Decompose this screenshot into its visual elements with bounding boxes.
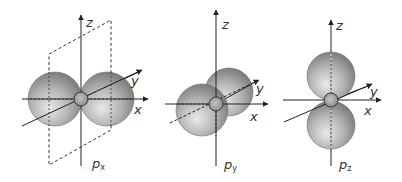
z-axis-label: z [85,15,94,30]
orbital-label-pz: pz [338,157,351,173]
x-axis-label: x [133,102,142,117]
z-axis-label: z [335,18,344,33]
x-axis-label: x [249,109,258,124]
panel-py: z y x py [165,10,268,173]
x-axis-label: x [363,103,372,118]
nucleus [74,92,88,106]
orbital-label-px: px [91,156,105,172]
p-orbitals-diagram: z y x px z y x py [0,0,402,182]
nucleus [209,97,223,111]
z-axis-label: z [221,17,230,32]
nucleus [324,93,338,107]
y-axis-label: y [130,73,139,88]
orbital-label-py: py [223,157,237,173]
y-axis-label: y [369,84,378,99]
y-axis-label: y [255,81,264,96]
panel-pz: z y x pz [283,18,381,173]
panel-px: z y x px [22,15,148,172]
